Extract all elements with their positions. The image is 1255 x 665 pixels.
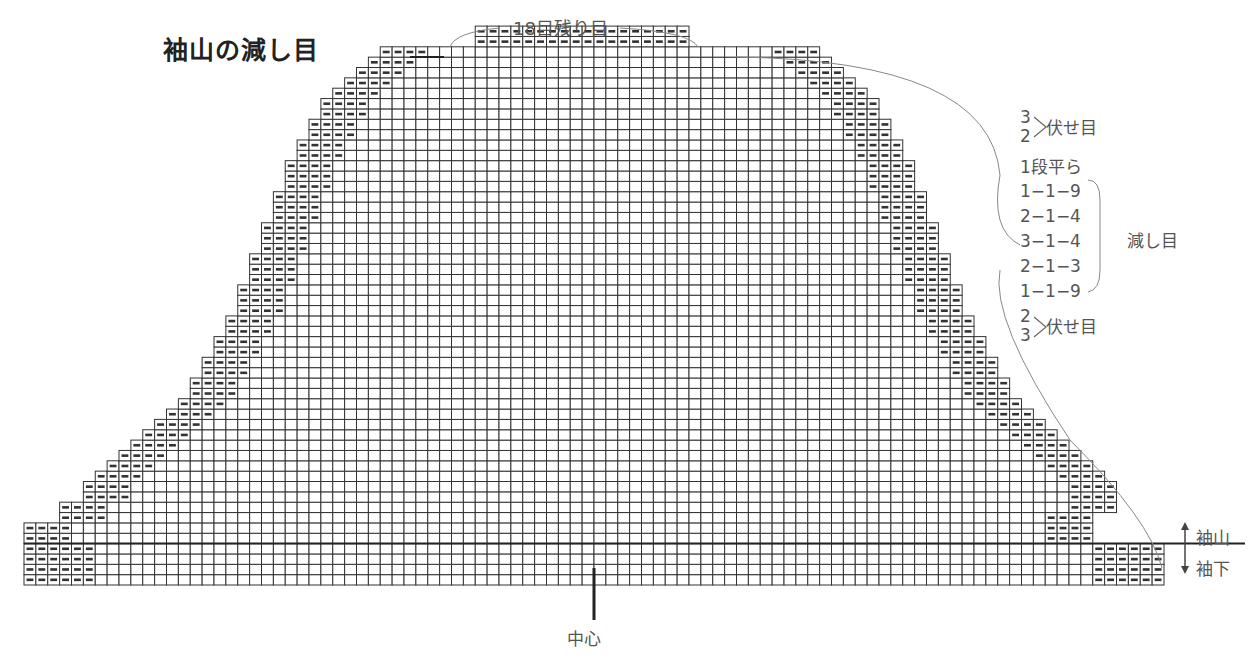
stitch-cell xyxy=(368,181,380,191)
stitch-cell xyxy=(689,161,701,171)
stitch-cell xyxy=(986,461,998,471)
purl-symbol xyxy=(157,434,164,437)
stitch-cell xyxy=(737,171,749,181)
stitch-cell xyxy=(547,482,559,492)
stitch-cell xyxy=(499,47,511,57)
purl-symbol xyxy=(1048,434,1055,437)
stitch-cell xyxy=(357,212,369,222)
stitch-cell xyxy=(333,554,345,564)
stitch-cell xyxy=(760,471,772,481)
stitch-cell xyxy=(725,99,737,109)
stitch-cell xyxy=(677,357,689,367)
stitch-cell xyxy=(475,181,487,191)
purl-symbol xyxy=(264,258,271,261)
stitch-cell xyxy=(594,212,606,222)
stitch-cell xyxy=(737,68,749,78)
stitch-cell xyxy=(558,430,570,440)
stitch-cell xyxy=(748,513,760,523)
purl-symbol xyxy=(110,475,117,478)
stitch-cell xyxy=(452,316,464,326)
stitch-cell xyxy=(867,223,879,233)
stitch-cell xyxy=(760,316,772,326)
stitch-cell xyxy=(713,337,725,347)
stitch-cell xyxy=(843,181,855,191)
stitch-cell xyxy=(380,150,392,160)
stitch-cell xyxy=(927,523,939,533)
stitch-cell xyxy=(357,337,369,347)
stitch-cell xyxy=(820,482,832,492)
stitch-cell xyxy=(1069,554,1081,564)
stitch-cell xyxy=(701,57,713,67)
stitch-cell xyxy=(273,378,285,388)
stitch-cell xyxy=(1057,492,1069,502)
stitch-cell xyxy=(547,471,559,481)
stitch-cell xyxy=(582,554,594,564)
stitch-cell xyxy=(772,161,784,171)
stitch-cell xyxy=(285,564,297,574)
stitch-cell xyxy=(630,482,642,492)
stitch-cell xyxy=(380,181,392,191)
stitch-cell xyxy=(107,554,119,564)
stitch-cell xyxy=(368,130,380,140)
stitch-cell xyxy=(653,140,665,150)
stitch-cell xyxy=(820,357,832,367)
stitch-cell xyxy=(155,544,167,554)
stitch-cell xyxy=(606,47,618,57)
stitch-cell xyxy=(832,150,844,160)
stitch-cell xyxy=(653,368,665,378)
stitch-cell xyxy=(915,564,927,574)
stitch-cell xyxy=(463,88,475,98)
stitch-cell xyxy=(345,440,357,450)
purl-symbol xyxy=(941,268,948,271)
stitch-cell xyxy=(95,533,107,543)
stitch-cell xyxy=(867,440,879,450)
stitch-cell xyxy=(986,419,998,429)
stitch-cell xyxy=(642,295,654,305)
stitch-cell xyxy=(357,223,369,233)
stitch-cell xyxy=(440,254,452,264)
stitch-cell xyxy=(796,368,808,378)
stitch-cell xyxy=(855,316,867,326)
stitch-cell xyxy=(820,388,832,398)
stitch-cell xyxy=(463,450,475,460)
stitch-cell xyxy=(309,316,321,326)
stitch-cell xyxy=(452,130,464,140)
stitch-cell xyxy=(832,171,844,181)
stitch-cell xyxy=(392,368,404,378)
stitch-cell xyxy=(642,243,654,253)
stitch-cell xyxy=(760,554,772,564)
stitch-cell xyxy=(737,513,749,523)
stitch-cell xyxy=(618,326,630,336)
stitch-cell xyxy=(974,575,986,585)
purl-symbol xyxy=(1072,496,1079,499)
stitch-cell xyxy=(582,181,594,191)
purl-symbol xyxy=(608,40,615,43)
stitch-cell xyxy=(701,326,713,336)
stitch-cell xyxy=(891,482,903,492)
stitch-cell xyxy=(297,533,309,543)
stitch-cell xyxy=(250,419,262,429)
stitch-cell xyxy=(642,233,654,243)
stitch-cell xyxy=(606,326,618,336)
stitch-cell xyxy=(879,450,891,460)
purl-symbol xyxy=(834,92,841,95)
stitch-cell xyxy=(357,502,369,512)
stitch-cell xyxy=(357,243,369,253)
stitch-cell xyxy=(784,419,796,429)
purl-symbol xyxy=(929,299,936,302)
stitch-cell xyxy=(202,554,214,564)
stitch-cell xyxy=(392,202,404,212)
stitch-cell xyxy=(582,68,594,78)
stitch-cell xyxy=(594,450,606,460)
stitch-cell xyxy=(891,430,903,440)
stitch-cell xyxy=(855,161,867,171)
stitch-cell xyxy=(238,378,250,388)
stitch-cell xyxy=(499,202,511,212)
stitch-cell xyxy=(487,306,499,316)
stitch-cell xyxy=(452,181,464,191)
stitch-cell xyxy=(345,388,357,398)
stitch-cell xyxy=(713,523,725,533)
stitch-cell xyxy=(262,544,274,554)
stitch-cell xyxy=(772,275,784,285)
stitch-cell xyxy=(713,99,725,109)
